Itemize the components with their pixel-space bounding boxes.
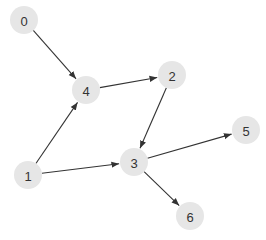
node-5: 5 [232, 116, 260, 144]
node-6: 6 [176, 202, 204, 230]
edge-1-to-4 [36, 102, 78, 163]
node-4: 4 [72, 76, 100, 104]
edge-2-to-3 [140, 88, 166, 148]
node-label: 4 [82, 84, 89, 99]
node-label: 6 [186, 210, 193, 225]
node-label: 0 [20, 14, 27, 29]
edge-4-to-2 [100, 78, 157, 88]
node-label: 2 [168, 69, 175, 84]
node-2: 2 [158, 61, 186, 89]
graph-canvas: 0123456 [0, 0, 266, 240]
node-1: 1 [14, 161, 42, 189]
edge-1-to-3 [42, 164, 119, 173]
edge-3-to-5 [147, 134, 231, 158]
node-label: 1 [24, 169, 31, 184]
edge-3-to-6 [144, 172, 179, 206]
edges-group [33, 30, 231, 205]
node-label: 5 [242, 124, 249, 139]
node-0: 0 [10, 6, 38, 34]
edge-0-to-4 [33, 30, 76, 78]
node-3: 3 [120, 148, 148, 176]
node-label: 3 [130, 156, 137, 171]
nodes-group: 0123456 [10, 6, 260, 230]
